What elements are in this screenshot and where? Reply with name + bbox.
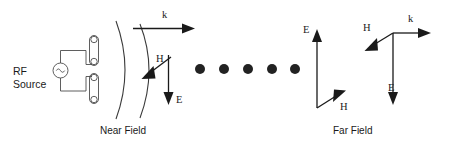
near-field-arcs (116, 21, 149, 119)
propagation-dot (219, 64, 229, 74)
rf-source-label-line1: RF (13, 65, 27, 77)
feed-line-lower (61, 77, 93, 92)
e-arrowhead-far-left (312, 29, 322, 42)
antenna-field-diagram: RF Source k E H Near Field (0, 0, 449, 143)
propagation-dot (267, 64, 277, 74)
dipole-lower-element (90, 74, 99, 104)
wavefront-arc-2 (140, 24, 149, 118)
far-field-axes-right: k H E (363, 13, 431, 105)
propagation-dot (243, 64, 253, 74)
rf-source-group (53, 51, 92, 92)
h-arrowhead-far-right (365, 38, 379, 51)
near-field-caption: Near Field (100, 125, 146, 136)
propagation-dot (195, 64, 205, 74)
e-arrowhead-near (164, 92, 174, 105)
diagram-canvas: RF Source k E H Near Field (0, 0, 449, 143)
near-field-h-vector: H (142, 53, 172, 79)
dipole-upper-element (90, 36, 99, 66)
near-field-k-label: k (162, 9, 168, 20)
feed-line-upper (61, 51, 93, 65)
near-field-e-label: E (176, 94, 182, 105)
sine-wave-icon (56, 69, 64, 72)
rf-source-label-line2: Source (13, 78, 46, 90)
far-field-right-h-label: H (363, 22, 371, 33)
far-field-axes-left: E H (303, 24, 348, 112)
far-field-left-h-label: H (340, 101, 348, 112)
wavefront-arc-1 (116, 21, 125, 119)
propagation-dots (195, 64, 300, 74)
near-field-h-label: H (156, 53, 164, 64)
far-field-right-e-label: E (388, 82, 394, 93)
k-arrowhead (182, 24, 195, 34)
far-field-right-k-label: k (408, 13, 414, 24)
e-arrowhead-far-right (388, 92, 398, 105)
far-field-right-h-shaft (375, 33, 393, 44)
far-field-caption: Far Field (333, 125, 372, 136)
near-field-e-vector: E (164, 55, 183, 105)
k-arrowhead-far-right (418, 28, 431, 38)
propagation-dot (290, 64, 300, 74)
far-field-left-h-shaft (317, 96, 336, 108)
far-field-left-e-label: E (303, 24, 309, 35)
